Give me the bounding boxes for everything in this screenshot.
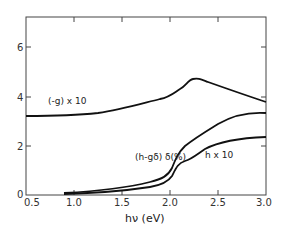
- x-ticks: [74, 17, 218, 195]
- curve-h-x10: [64, 137, 266, 194]
- x-tick-1.5: 1.5: [114, 197, 130, 208]
- chart: 0 2 4 6 0.5 1.0 1.5 2.0 2.5 3.0 hν (eV) …: [0, 0, 286, 231]
- x-tick-0.5: 0.5: [24, 197, 40, 208]
- y-tick-0: 0: [17, 189, 23, 200]
- annotation-h-x10: h x 10: [205, 150, 233, 160]
- annotation-h-minus-g-delta: (h-gδ) δ(%): [135, 152, 186, 162]
- y-tick-2: 2: [17, 141, 23, 152]
- x-tick-2.5: 2.5: [210, 197, 226, 208]
- plot-frame: [26, 17, 266, 195]
- x-tick-3.0: 3.0: [256, 197, 272, 208]
- x-tick-2.0: 2.0: [162, 197, 178, 208]
- x-axis-label: hν (eV): [125, 212, 165, 225]
- annotation-neg-g: (-g) x 10: [48, 96, 87, 106]
- x-tick-1.0: 1.0: [66, 197, 82, 208]
- y-tick-6: 6: [17, 42, 23, 53]
- y-tick-4: 4: [17, 92, 23, 103]
